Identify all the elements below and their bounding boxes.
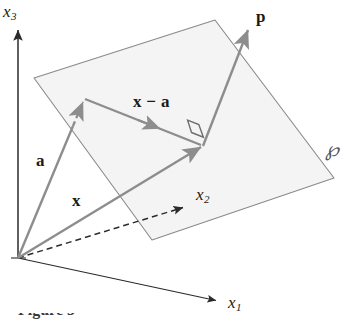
vector-a-label: a — [36, 152, 45, 169]
figure-caption: Figure 3 — [18, 313, 75, 319]
x3-axis-label: x3 — [3, 3, 17, 22]
vector-p-label: p — [256, 8, 266, 25]
vector-x-label: x — [72, 192, 81, 209]
plane-label: ℘ — [325, 139, 339, 159]
vector-a-solid — [18, 126, 73, 258]
x1-axis-line — [18, 258, 216, 301]
geometry-canvas — [0, 0, 349, 323]
vector-x-minus-a-label: x − a — [133, 93, 170, 110]
x1-axis-label: x1 — [228, 294, 242, 313]
figure-caption-strip: Figure 3 — [0, 313, 349, 323]
x2-axis-label: x2 — [196, 186, 210, 205]
figure-root: x3 x1 x2 a x x − a p ℘ Figure 3 — [0, 0, 349, 323]
